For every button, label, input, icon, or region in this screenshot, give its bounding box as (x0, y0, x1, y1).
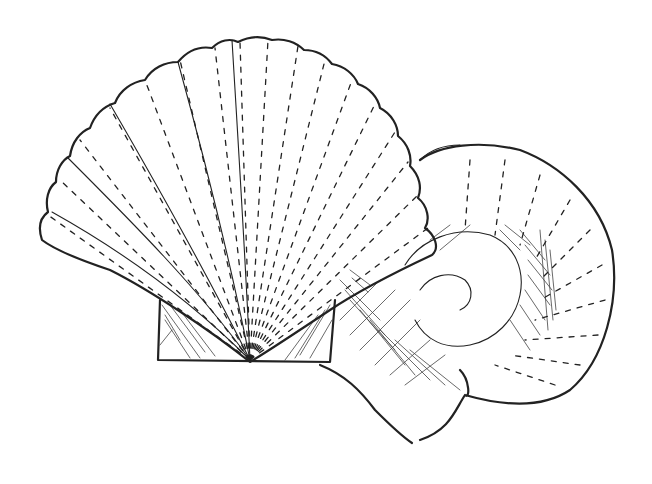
stalk-line (320, 365, 412, 443)
shells-drawing (0, 0, 652, 484)
scallop-shell (40, 37, 436, 362)
coiled-shell (340, 145, 614, 440)
illustration-canvas (0, 0, 652, 484)
